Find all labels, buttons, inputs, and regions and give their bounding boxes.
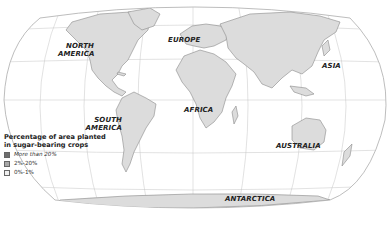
label-asia: ASIA <box>322 62 341 70</box>
swatch-high-icon <box>4 152 10 158</box>
legend-item-low: 0%-1% <box>4 169 106 176</box>
legend-title-line1: Percentage of area planted <box>4 133 106 141</box>
label-antarctica: ANTARCTICA <box>225 195 275 203</box>
legend: Percentage of area planted in sugar-bear… <box>4 133 106 176</box>
label-australia: AUSTRALIA <box>276 142 321 150</box>
label-africa: AFRICA <box>184 106 213 114</box>
label-europe: EUROPE <box>168 36 200 44</box>
swatch-medium-icon <box>4 161 10 167</box>
legend-item-medium: 2%-20% <box>4 160 106 167</box>
legend-title-line2: in sugar-bearing crops <box>4 141 106 149</box>
swatch-low-icon <box>4 170 10 176</box>
label-south-america: SOUTH AMERICA <box>84 116 122 132</box>
legend-item-high: More than 20% <box>4 151 106 158</box>
label-north-america: NORTH AMERICA <box>58 42 94 58</box>
